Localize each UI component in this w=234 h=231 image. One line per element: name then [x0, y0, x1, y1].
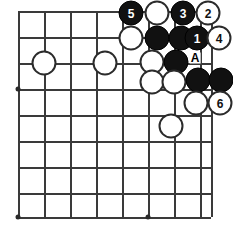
stone-w-r5-1: [184, 91, 209, 116]
stone-3-label: 3: [180, 7, 187, 19]
grid-line-horizontal-5: [18, 141, 211, 143]
stone-6: 6: [208, 91, 233, 116]
star-point-left: [16, 87, 21, 92]
stone-w-top-1: [145, 1, 170, 26]
grid-line-vertical-0: [18, 11, 20, 217]
star-point-bottom-center: [146, 215, 151, 220]
star-point-bottom-left: [16, 215, 21, 220]
stone-6-label: 6: [217, 97, 224, 109]
stone-b-r4-1: [186, 68, 211, 93]
stone-w-left-2: [93, 51, 118, 76]
stone-w-left-1: [32, 51, 57, 76]
grid-line-vertical-1: [44, 11, 46, 217]
stone-4: 4: [207, 26, 232, 51]
stone-2: 2: [196, 1, 221, 26]
grid-line-horizontal-6: [18, 167, 211, 169]
stone-b-r4-2: [209, 68, 234, 93]
stone-5: 5: [119, 1, 144, 26]
stone-w-bottom-1: [159, 114, 184, 139]
stone-b-r2-1: [145, 26, 170, 51]
stone-2-label: 2: [205, 7, 212, 19]
stone-1-label: 1: [194, 32, 201, 44]
stone-5-label: 5: [128, 7, 135, 19]
stone-4-label: 4: [216, 32, 223, 44]
marker-a: A: [190, 53, 201, 64]
grid-line-horizontal-8: [18, 217, 211, 219]
stone-w-r4-2: [162, 70, 187, 95]
grid-line-horizontal-4: [18, 115, 211, 117]
go-board-diagram: 532146 A: [0, 0, 233, 231]
grid-line-vertical-3: [96, 11, 98, 217]
stone-3: 3: [171, 1, 196, 26]
grid-line-horizontal-7: [18, 193, 211, 195]
grid-line-vertical-2: [70, 11, 72, 217]
stone-w-r2-1: [119, 26, 144, 51]
